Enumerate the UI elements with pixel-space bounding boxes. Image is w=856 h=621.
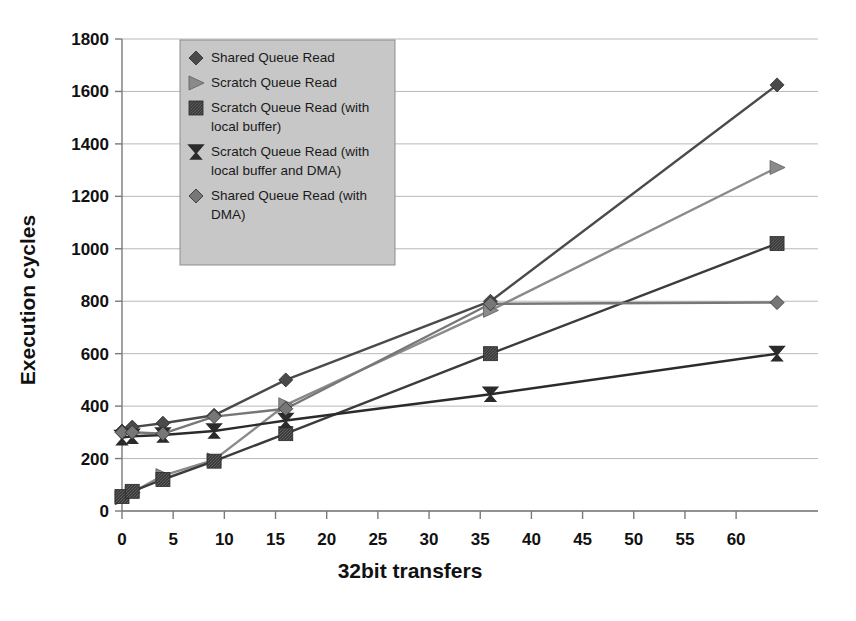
x-tick-label: 35	[471, 530, 490, 549]
x-tick-label: 60	[727, 530, 746, 549]
x-tick-label: 50	[624, 530, 643, 549]
y-tick-label: 1600	[71, 82, 109, 101]
y-tick-labels: 020040060080010001200140016001800	[71, 30, 109, 521]
legend-label: Scratch Queue Read	[211, 75, 337, 90]
y-tick-label: 600	[81, 345, 109, 364]
x-tick-label: 20	[317, 530, 336, 549]
x-tick-label: 0	[117, 530, 126, 549]
legend-label-cont: DMA)	[211, 207, 246, 222]
x-tick-label: 15	[266, 530, 285, 549]
chart-page: 020040060080010001200140016001800 051015…	[0, 0, 856, 621]
legend-label-cont: local buffer and DMA)	[211, 163, 341, 178]
y-tick-label: 200	[81, 450, 109, 469]
legend-label: Scratch Queue Read (with	[211, 144, 369, 159]
marker-square	[279, 427, 293, 441]
y-tick-label: 1200	[71, 187, 109, 206]
x-axis-title: 32bit transfers	[338, 559, 483, 582]
marker-diamond	[770, 296, 784, 310]
x-tick-labels: 051015202530354045505560	[117, 530, 745, 549]
x-tick-label: 25	[368, 530, 387, 549]
marker-square	[207, 454, 221, 468]
y-tick-label: 400	[81, 397, 109, 416]
y-tick-label: 1800	[71, 30, 109, 49]
marker-square	[156, 473, 170, 487]
y-axis-title: Execution cycles	[16, 215, 39, 385]
x-tick-label: 45	[573, 530, 592, 549]
legend-label: Scratch Queue Read (with	[211, 100, 369, 115]
marker-square	[770, 237, 784, 251]
x-tick-label: 55	[675, 530, 694, 549]
legend-label: Shared Queue Read	[211, 50, 335, 65]
y-tick-label: 1000	[71, 240, 109, 259]
x-tick-label: 10	[215, 530, 234, 549]
x-tick-label: 5	[168, 530, 177, 549]
x-tick-label: 30	[420, 530, 439, 549]
legend-label: Shared Queue Read (with	[211, 188, 367, 203]
marker-triangle	[770, 160, 785, 174]
legend-label-cont: local buffer)	[211, 119, 281, 134]
chart-legend: Shared Queue ReadScratch Queue ReadScrat…	[180, 40, 395, 265]
marker-diamond	[279, 373, 293, 387]
y-tick-label: 800	[81, 292, 109, 311]
marker-square	[189, 101, 203, 115]
line-chart: 020040060080010001200140016001800 051015…	[0, 0, 856, 621]
x-tick-label: 40	[522, 530, 541, 549]
y-tick-label: 1400	[71, 135, 109, 154]
marker-square	[483, 347, 497, 361]
marker-square	[125, 484, 139, 498]
y-tick-label: 0	[100, 502, 109, 521]
